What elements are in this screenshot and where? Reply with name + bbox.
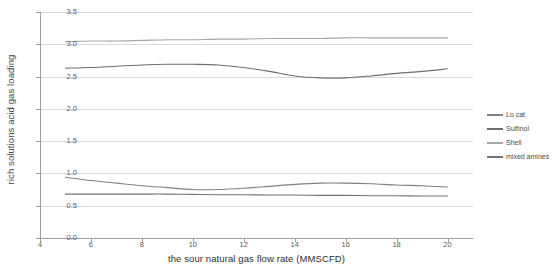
y-tick-label: 3.5 xyxy=(51,8,77,16)
x-tick-label: 4 xyxy=(28,241,52,249)
series-line-sulfinol xyxy=(65,64,447,78)
y-axis-title-text: rich solutions acid gas loading xyxy=(6,54,17,184)
x-tick-label: 18 xyxy=(385,241,409,249)
y-tick-label: 1.5 xyxy=(51,137,77,145)
legend-label: mixed amines xyxy=(506,153,549,161)
x-tick-label: 8 xyxy=(130,241,154,249)
legend-swatch-icon xyxy=(487,128,503,130)
y-tick-label: 2.5 xyxy=(51,73,77,81)
series-layer xyxy=(40,12,473,238)
y-tick-label: 0.5 xyxy=(51,202,77,210)
x-tick-label: 16 xyxy=(334,241,358,249)
x-tick-label: 20 xyxy=(436,241,460,249)
legend-item-lo-cat[interactable]: Lo cat xyxy=(487,108,555,122)
x-axis-line xyxy=(40,238,473,239)
legend-swatch-icon xyxy=(487,114,503,116)
legend-label: Shell xyxy=(506,139,522,147)
legend-item-shell[interactable]: Shell xyxy=(487,136,555,150)
y-tick-label: 0.0 xyxy=(51,234,77,242)
x-tick-label: 6 xyxy=(79,241,103,249)
y-tick-label: 2.0 xyxy=(51,105,77,113)
y-tick-label: 3.0 xyxy=(51,40,77,48)
legend-item-sulfinol[interactable]: Sulfinol xyxy=(487,122,555,136)
y-axis-title: rich solutions acid gas loading xyxy=(4,0,18,238)
legend-label: Sulfinol xyxy=(506,125,529,133)
chart-legend: Lo catSulfinolShellmixed amines xyxy=(487,108,555,164)
y-tick-label: 1.0 xyxy=(51,169,77,177)
x-tick-label: 10 xyxy=(181,241,205,249)
series-line-lo-cat xyxy=(65,177,447,189)
plot-area xyxy=(40,12,473,238)
legend-item-mixed-amines[interactable]: mixed amines xyxy=(487,150,555,164)
x-tick-label: 12 xyxy=(232,241,256,249)
series-line-mixed-amines xyxy=(65,194,447,196)
chart-figure: rich solutions acid gas loading 0.00.51.… xyxy=(0,0,555,272)
x-axis-title: the sour natural gas flow rate (MMSCFD) xyxy=(40,253,473,264)
series-line-shell xyxy=(65,38,447,42)
x-tick-label: 14 xyxy=(283,241,307,249)
legend-label: Lo cat xyxy=(506,111,525,119)
legend-swatch-icon xyxy=(487,142,503,144)
legend-swatch-icon xyxy=(487,156,503,158)
